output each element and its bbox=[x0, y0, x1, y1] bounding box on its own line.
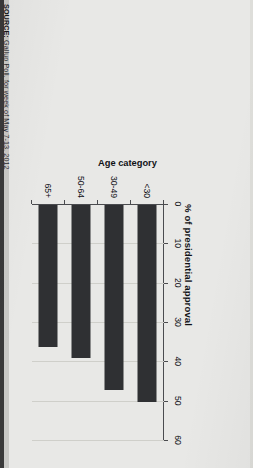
value-tick-label: 60 bbox=[173, 435, 183, 445]
value-tick bbox=[164, 283, 168, 284]
bar-chart: % of presidential approval 0102030405060… bbox=[26, 152, 194, 454]
value-tick bbox=[164, 401, 168, 402]
category-tick bbox=[31, 200, 32, 204]
value-tick bbox=[164, 322, 168, 323]
category-label: 30-49 bbox=[110, 176, 120, 198]
plot-area: 0102030405060 <3030-4950-6465+ bbox=[32, 204, 164, 440]
category-tick bbox=[64, 200, 65, 204]
category-label: 50-64 bbox=[77, 176, 87, 198]
category-tick bbox=[163, 200, 164, 204]
value-tick-label: 10 bbox=[173, 239, 183, 249]
category-label: <30 bbox=[143, 183, 153, 198]
gridline bbox=[32, 440, 164, 441]
source-text: Gallup Poll, for week of May 7-13, 2012 bbox=[2, 38, 11, 170]
bar bbox=[72, 205, 91, 358]
bar bbox=[39, 205, 58, 347]
value-tick-label: 30 bbox=[173, 317, 183, 327]
bar bbox=[105, 205, 124, 390]
page-canvas: SOURCE: Gallup Poll, for week of May 7-1… bbox=[0, 0, 253, 468]
category-label: 65+ bbox=[44, 183, 54, 198]
category-tick bbox=[130, 200, 131, 204]
page-edge bbox=[250, 0, 253, 468]
value-tick-label: 20 bbox=[173, 278, 183, 288]
value-tick bbox=[164, 243, 168, 244]
category-tick bbox=[97, 200, 98, 204]
value-tick-label: 40 bbox=[173, 357, 183, 367]
value-tick bbox=[164, 440, 168, 441]
bar bbox=[138, 205, 157, 402]
value-tick-label: 50 bbox=[173, 396, 183, 406]
source-credit: SOURCE: Gallup Poll, for week of May 7-1… bbox=[3, 4, 10, 194]
chart-title: % of presidential approval bbox=[183, 204, 194, 326]
value-tick bbox=[164, 204, 168, 205]
source-label: SOURCE: bbox=[2, 4, 11, 38]
value-tick-label: 0 bbox=[173, 202, 183, 207]
category-axis-title: Age category bbox=[98, 158, 157, 168]
value-tick bbox=[164, 361, 168, 362]
